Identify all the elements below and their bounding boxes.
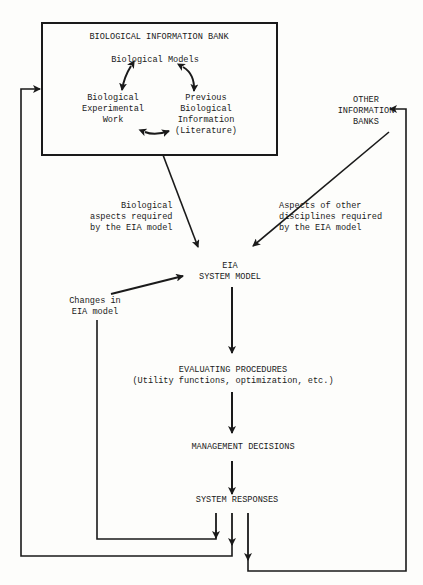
eia-system-model-node: EIA SYSTEM MODEL xyxy=(199,261,261,283)
other-information-banks-label: OTHER INFORMATION BANKS xyxy=(338,95,395,128)
eia-flow-diagram: BIOLOGICAL INFORMATION BANK Biological M… xyxy=(0,0,423,585)
previous-information-label: Previous Biological Information (Literat… xyxy=(175,93,237,137)
other-aspects-label: Aspects of other disciplines required by… xyxy=(279,201,382,234)
bank-title: BIOLOGICAL INFORMATION BANK xyxy=(89,32,228,43)
evaluating-procedures-node: EVALUATING PROCEDURES (Utility functions… xyxy=(132,365,333,387)
system-responses-node: SYSTEM RESPONSES xyxy=(196,495,279,506)
biological-aspects-label: Biological aspects required by the EIA m… xyxy=(90,201,173,234)
biological-models-label: Biological Models xyxy=(111,55,199,66)
experimental-work-label: Biological Experimental Work xyxy=(82,93,144,126)
changes-in-eia-model-label: Changes in EIA model xyxy=(69,296,121,318)
management-decisions-node: MANAGEMENT DECISIONS xyxy=(191,442,294,453)
